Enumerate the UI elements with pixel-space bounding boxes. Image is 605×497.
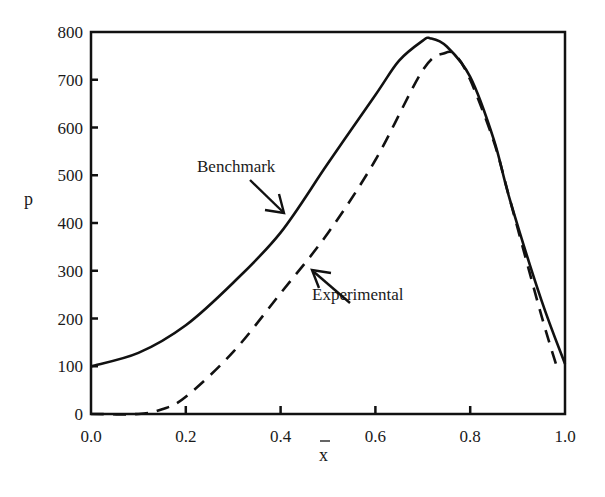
y-tick-label: 100 (58, 357, 84, 376)
x-axis-label: x (319, 445, 328, 465)
x-tick-label: 0.8 (460, 427, 481, 446)
x-tick-label: 0.0 (80, 427, 101, 446)
x-tick-label: 0.2 (175, 427, 196, 446)
experimental-annotation-label: Experimental (312, 285, 404, 304)
y-tick-label: 700 (58, 71, 84, 90)
x-axis-label-group: x (319, 441, 330, 465)
y-tick-label: 300 (58, 262, 84, 281)
y-tick-label: 400 (58, 214, 84, 233)
y-tick-label: 800 (58, 23, 84, 42)
plot-frame (91, 32, 565, 414)
experimental-line (91, 52, 558, 415)
y-tick-label: 600 (58, 119, 84, 138)
y-axis-label: p (24, 189, 33, 209)
benchmark-arrow-icon (250, 180, 284, 213)
x-tick-label: 0.4 (270, 427, 292, 446)
x-tick-label: 1.0 (554, 427, 575, 446)
benchmark-line (91, 38, 565, 367)
y-tick-label: 200 (58, 310, 84, 329)
benchmark-annotation-label: Benchmark (197, 157, 276, 176)
x-tick-label: 0.6 (365, 427, 386, 446)
y-tick-label: 500 (58, 166, 84, 185)
chart-canvas: 0100200300400500600700800 0.00.20.40.60.… (0, 0, 605, 497)
y-tick-label: 0 (75, 405, 84, 424)
x-axis-ticks: 0.00.20.40.60.81.0 (80, 406, 575, 446)
